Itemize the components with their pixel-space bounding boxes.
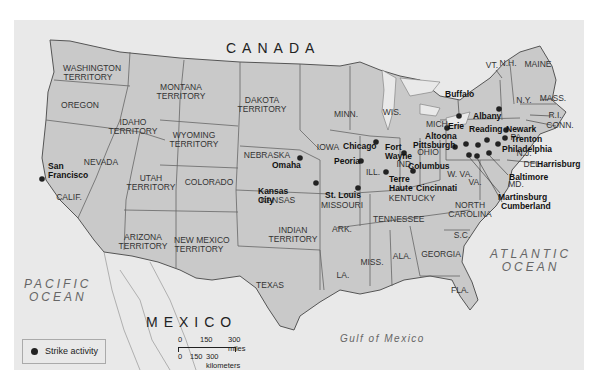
state-label: NORTH CAROLINA	[445, 201, 495, 219]
state-label: CONN.	[535, 121, 585, 130]
km-tick-300: 300 kilometers	[206, 352, 240, 370]
city-label: Chicago	[343, 142, 377, 151]
state-label: OREGON	[55, 101, 105, 110]
city-label: Kansas City	[258, 187, 288, 205]
city-label: Baltimore	[509, 173, 548, 182]
city-label: Omaha	[272, 161, 301, 170]
city-label: Columbus	[408, 162, 450, 171]
miles-tick-150: 150	[200, 335, 213, 344]
state-label: ARK.	[317, 225, 367, 234]
city-label: Newark	[506, 125, 536, 134]
strike-activity-icon	[31, 348, 38, 355]
map-panel: CANADA MEXICO PACIFIC OCEAN ATLANTIC OCE…	[14, 20, 584, 370]
city-label: Philadelphia	[502, 145, 552, 154]
city-label: Pittsburgh	[413, 141, 456, 150]
atlantic-ocean-label: ATLANTIC OCEAN	[490, 248, 571, 274]
state-label: R.I.	[530, 111, 580, 120]
mexico-label: MEXICO	[146, 314, 237, 330]
miles-ticks: 0 150 300 miles	[178, 335, 238, 345]
state-label: MONTANA TERRITORY	[156, 83, 206, 101]
state-label: DAKOTA TERRITORY	[237, 96, 287, 114]
state-label: TEXAS	[245, 281, 295, 290]
city-label: St. Louis	[325, 191, 361, 200]
state-label: UTAH TERRITORY	[126, 174, 176, 192]
city-label: Albany	[473, 112, 501, 121]
km-tick-150: 150	[190, 352, 203, 361]
state-label: MASS.	[528, 94, 578, 103]
city-label: Fort Wayne	[385, 143, 412, 161]
state-label: KENTUCKY	[387, 194, 437, 203]
pacific-line-2: OCEAN	[24, 291, 91, 304]
state-label: GEORGIA	[416, 250, 466, 259]
state-label: WASHINGTON TERRITORY	[63, 64, 113, 82]
city-label: Terre Haute	[389, 175, 413, 193]
state-label: NEBRASKA	[242, 151, 292, 160]
city-label: Erie	[448, 122, 464, 131]
state-label: WIS.	[367, 108, 417, 117]
state-label: COLORADO	[184, 178, 234, 187]
state-label: FLA.	[435, 286, 485, 295]
state-label: MINN.	[321, 110, 371, 119]
km-ticks: 0 150 300 kilometers	[178, 352, 238, 362]
state-label: MISSOURI	[317, 201, 367, 210]
atlantic-line-2: OCEAN	[490, 261, 571, 274]
km-tick-0: 0	[178, 352, 182, 361]
state-label: MAINE	[513, 60, 563, 69]
scale-bar: 0 150 300 miles 0 150 300 kilometers	[178, 335, 238, 362]
state-label: CALIF.	[44, 193, 94, 202]
state-label: IDAHO TERRITORY	[108, 118, 158, 136]
city-label: Buffalo	[445, 90, 474, 99]
legend: Strike activity	[22, 339, 106, 364]
state-label: TENNESSEE	[373, 215, 423, 224]
state-label: NEW MEXICO TERRITORY	[174, 236, 224, 254]
state-label: WYOMING TERRITORY	[169, 131, 219, 149]
legend-label: Strike activity	[45, 346, 98, 356]
canada-label: CANADA	[226, 40, 320, 56]
state-label: INDIAN TERRITORY	[268, 226, 318, 244]
miles-tick-0: 0	[178, 335, 182, 344]
pacific-ocean-label: PACIFIC OCEAN	[24, 278, 91, 304]
state-label: S.C.	[437, 231, 487, 240]
city-label: Trenton	[511, 135, 542, 144]
state-label: ARIZONA TERRITORY	[118, 233, 168, 251]
city-label: Reading	[469, 125, 503, 134]
city-label: San Francisco	[48, 162, 88, 180]
city-label: Harrisburg	[537, 160, 580, 169]
city-label: Peoria	[334, 157, 360, 166]
gulf-of-mexico-label: Gulf of Mexico	[340, 333, 425, 344]
map-figure: CANADA MEXICO PACIFIC OCEAN ATLANTIC OCE…	[0, 0, 596, 387]
miles-tick-300: 300 miles	[228, 335, 246, 353]
city-label: Cumberland	[501, 202, 551, 211]
state-label: LA.	[318, 271, 368, 280]
city-label: Cincinnati	[416, 184, 457, 193]
